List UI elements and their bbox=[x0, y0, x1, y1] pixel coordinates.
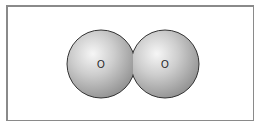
atom-label-left: O bbox=[97, 59, 105, 70]
oxygen-atom-right: O bbox=[131, 30, 199, 98]
atom-label-right: O bbox=[161, 59, 169, 70]
oxygen-atom-left: O bbox=[67, 30, 135, 98]
o2-molecule-model: O O bbox=[0, 0, 265, 126]
